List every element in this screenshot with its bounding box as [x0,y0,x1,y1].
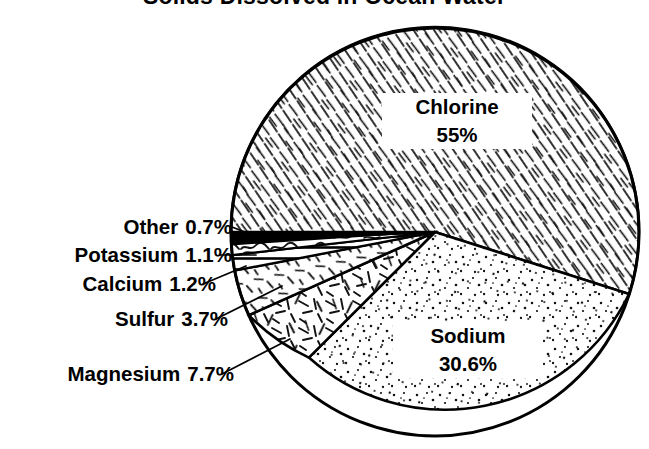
callout-label-potassium: Potassium1.1% [0,245,232,266]
callout-name-sulfur: Sulfur [115,307,174,330]
callout-value-potassium: 1.1% [185,243,232,266]
slice-name-sodium: Sodium [393,322,543,350]
callout-value-magnesium: 7.7% [187,362,234,385]
callout-label-other: Other0.7% [0,217,232,238]
callout-name-calcium: Calcium [83,272,163,295]
callout-label-sulfur: Sulfur3.7% [0,309,228,330]
slice-label-sodium: Sodium 30.6% [393,322,543,378]
pie-chart-figure: Solids Dissolved in Ocean Water [0,0,649,449]
callout-value-other: 0.7% [185,215,232,238]
callout-value-sulfur: 3.7% [181,307,228,330]
callout-name-magnesium: Magnesium [67,362,180,385]
callout-name-other: Other [124,215,179,238]
slice-value-chlorine: 55% [382,121,532,149]
callout-label-calcium: Calcium1.2% [0,274,216,295]
slice-label-chlorine: Chlorine 55% [382,93,532,149]
slice-value-sodium: 30.6% [393,350,543,378]
callout-label-magnesium: Magnesium7.7% [0,364,234,385]
callout-name-potassium: Potassium [75,243,179,266]
callout-value-calcium: 1.2% [169,272,216,295]
slice-name-chlorine: Chlorine [382,93,532,121]
